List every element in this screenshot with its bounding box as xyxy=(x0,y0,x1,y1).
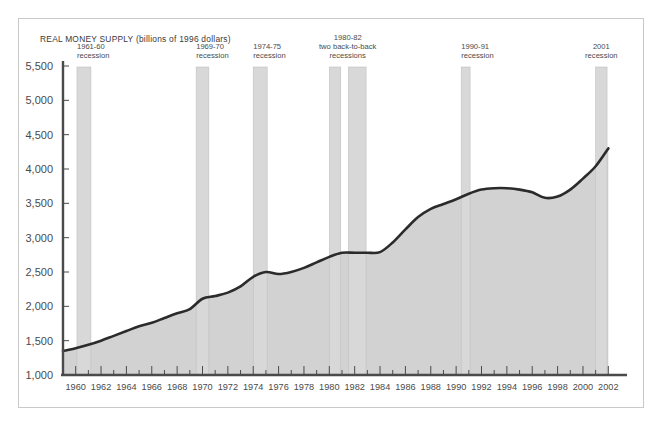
x-tick-label: 1970 xyxy=(192,382,212,392)
x-tick-label: 2002 xyxy=(598,382,618,392)
annotation-year: 1969-70 xyxy=(196,42,224,51)
annotation-1: 1969-70recession xyxy=(196,42,229,60)
recession-band-group-2 xyxy=(253,67,267,375)
x-tick-label: 1978 xyxy=(294,382,314,392)
chart-page: REAL MONEY SUPPLY (billions of 1996 doll… xyxy=(0,0,664,426)
y-tick-label: 4,500 xyxy=(25,129,53,141)
recession-band xyxy=(348,67,366,375)
recession-band-group-1 xyxy=(196,67,209,375)
x-tick-label: 1992 xyxy=(471,382,491,392)
recession-band-group-4 xyxy=(461,67,470,375)
recession-band xyxy=(596,67,607,375)
y-tick-label: 3,000 xyxy=(25,232,53,244)
y-tick-label: 1,500 xyxy=(25,335,53,347)
annotation-5: 2001recession xyxy=(585,42,618,60)
annotation-year: 1990-91 xyxy=(461,42,489,51)
annotation-text: recession xyxy=(196,51,229,60)
y-tick-label: 2,500 xyxy=(25,266,53,278)
annotation-text: recession xyxy=(253,51,286,60)
x-tick-label: 1976 xyxy=(268,382,288,392)
x-tick-label: 1962 xyxy=(91,382,111,392)
x-tick-label: 1990 xyxy=(446,382,466,392)
y-tick-label: 4,000 xyxy=(25,163,53,175)
x-tick-label: 1998 xyxy=(547,382,567,392)
chart-svg: 5,5005,0004,5004,0003,5003,0002,5002,000… xyxy=(18,18,644,408)
recession-band-group-0 xyxy=(77,67,91,375)
recession-band xyxy=(77,67,91,375)
annotation-text: two back-to-back xyxy=(319,42,377,51)
recession-band xyxy=(329,67,340,375)
y-tick-label: 1,000 xyxy=(25,369,53,381)
x-tick-label: 1968 xyxy=(167,382,187,392)
chart-canvas: 5,5005,0004,5004,0003,5003,0002,5002,000… xyxy=(18,18,644,408)
recession-band xyxy=(196,67,209,375)
y-tick-label: 5,000 xyxy=(25,94,53,106)
x-tick-label: 1980 xyxy=(319,382,339,392)
annotation-3: 1980-82two back-to-backrecessions xyxy=(319,33,377,60)
x-tick-label: 1994 xyxy=(497,382,517,392)
annotation-2: 1974-75recession xyxy=(253,42,286,60)
x-tick-label: 1988 xyxy=(421,382,441,392)
x-tick-label: 1996 xyxy=(522,382,542,392)
x-tick-label: 1964 xyxy=(116,382,136,392)
x-tick-label: 1972 xyxy=(218,382,238,392)
y-tick-label: 3,500 xyxy=(25,197,53,209)
y-tick-label: 2,000 xyxy=(25,300,53,312)
annotation-year: 1974-75 xyxy=(253,42,281,51)
recession-band xyxy=(461,67,470,375)
x-tick-label: 1974 xyxy=(243,382,263,392)
annotation-year: 1980-82 xyxy=(334,33,362,42)
annotation-text: recessions xyxy=(330,51,366,60)
x-tick-label: 1966 xyxy=(142,382,162,392)
x-tick-label: 1986 xyxy=(395,382,415,392)
annotation-0: 1961-60recession xyxy=(77,42,110,60)
x-tick-label: 2000 xyxy=(573,382,593,392)
x-tick-label: 1982 xyxy=(344,382,364,392)
annotation-text: recession xyxy=(461,51,494,60)
annotation-year: 2001 xyxy=(593,42,610,51)
x-tick-label: 1960 xyxy=(65,382,85,392)
x-tick-label: 1984 xyxy=(370,382,390,392)
annotation-year: 1961-60 xyxy=(77,42,105,51)
recession-band xyxy=(253,67,267,375)
recession-band-group-5 xyxy=(596,67,607,375)
y-tick-label: 5,500 xyxy=(25,60,53,72)
annotation-text: recession xyxy=(585,51,618,60)
annotation-text: recession xyxy=(77,51,110,60)
annotation-4: 1990-91recession xyxy=(461,42,494,60)
